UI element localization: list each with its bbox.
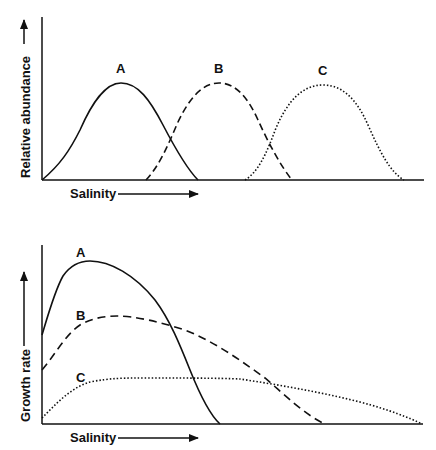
bottom-y-label: Growth rate [18, 349, 33, 422]
bottom-curve-a [42, 261, 220, 424]
top-x-label: Salinity [70, 186, 117, 201]
top-panel-abundance: Relative abundance Salinity A B C [18, 17, 424, 201]
top-y-label: Relative abundance [18, 56, 33, 178]
top-label-c: C [318, 63, 328, 78]
bottom-panel-growth: Growth rate Salinity A B C [18, 245, 423, 445]
top-label-a: A [116, 61, 126, 76]
top-curve-c [245, 85, 404, 180]
salinity-figure: Relative abundance Salinity A B C Growth… [0, 0, 436, 450]
bottom-curve-c [42, 378, 422, 424]
bottom-x-label: Salinity [70, 430, 117, 445]
bottom-label-b: B [76, 308, 85, 323]
top-label-b: B [214, 61, 223, 76]
top-curve-b [146, 83, 292, 180]
bottom-label-c: C [76, 370, 86, 385]
bottom-label-a: A [76, 245, 86, 260]
